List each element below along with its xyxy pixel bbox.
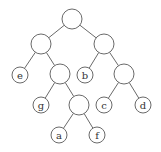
tree-node-n5 xyxy=(69,95,89,115)
tree-nodes: ebgcdaf xyxy=(12,9,151,143)
tree-edge-n4-d xyxy=(129,83,139,99)
node-label: e xyxy=(17,70,23,81)
tree-edge-n2-n4 xyxy=(110,52,119,65)
tree-edge-n2-b xyxy=(89,53,99,69)
node-label: b xyxy=(82,70,88,81)
tree-edge-n4-c xyxy=(108,82,118,98)
node-label: c xyxy=(101,100,107,111)
node-circle xyxy=(94,34,114,54)
tree-edge-root-n1 xyxy=(49,25,64,37)
tree-edge-n5-f xyxy=(84,114,93,129)
node-circle xyxy=(31,34,51,54)
tree-node-n4 xyxy=(114,64,134,84)
tree-edge-n1-e xyxy=(24,52,35,68)
node-circle xyxy=(114,64,134,84)
node-circle xyxy=(69,95,89,115)
tree-node-d: d xyxy=(135,97,151,113)
tree-edge-n3-n5 xyxy=(65,83,74,97)
tree-edge-root-n2 xyxy=(80,25,96,38)
tree-node-a: a xyxy=(51,127,67,143)
node-label: g xyxy=(38,100,45,111)
tree-node-g: g xyxy=(33,97,49,113)
node-label: a xyxy=(56,130,62,141)
binary-tree-diagram: ebgcdaf xyxy=(0,0,161,152)
tree-edge-n3-g xyxy=(45,83,55,99)
tree-node-f: f xyxy=(89,127,105,143)
tree-node-n3 xyxy=(50,64,70,84)
tree-node-root xyxy=(62,9,82,29)
tree-node-c: c xyxy=(96,97,112,113)
tree-node-b: b xyxy=(77,67,93,83)
tree-node-n1 xyxy=(31,34,51,54)
tree-edge-n1-n3 xyxy=(46,52,54,65)
tree-edge-n5-a xyxy=(63,113,73,128)
tree-node-n2 xyxy=(94,34,114,54)
node-circle xyxy=(62,9,82,29)
node-circle xyxy=(50,64,70,84)
node-label: d xyxy=(140,100,147,111)
tree-node-e: e xyxy=(12,67,28,83)
